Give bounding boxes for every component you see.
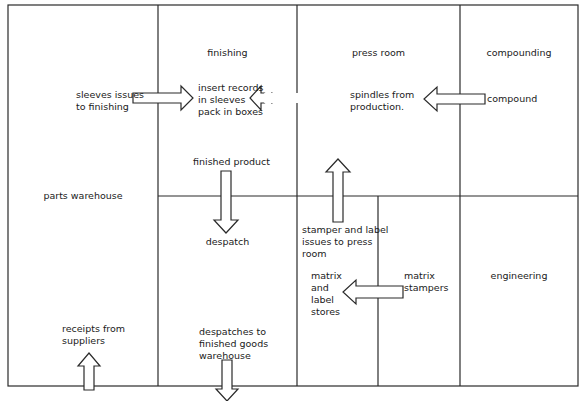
arrow-up-icon [78,353,100,390]
annotation-finished-product: finished product [193,156,270,168]
room-label-engineering: engineering [460,270,578,282]
arrow-down-icon [216,360,238,401]
room-label-matrix-stampers: matrix stampers [404,270,448,294]
annotation-despatches: despatches to finished goods warehouse [199,326,268,362]
room-label-compounding: compounding [460,47,578,59]
annotation-insert-records: insert records in sleeves pack in boxes [198,82,263,118]
room-label-finishing: finishing [158,47,297,59]
arrow-left-icon [424,87,485,111]
annotation-receipts: receipts from suppliers [62,323,125,347]
annotation-sleeves: sleeves issues to finishing [76,89,144,113]
annotation-stamper-label: stamper and label issues to press room [302,224,388,260]
arrow-up-icon [326,159,350,222]
annotation-compound: compound [487,93,537,105]
room-label-parts-warehouse: parts warehouse [8,190,158,202]
room-label-press-room: press room [297,47,460,59]
room-label-despatch: despatch [158,236,297,248]
room-label-matrix-label-stores: matrix and label stores [311,270,342,318]
arrow-left-icon [260,86,320,110]
arrow-left-icon [343,280,403,304]
arrow-down-icon [214,171,238,233]
annotation-spindles: spindles from production. [350,89,414,113]
